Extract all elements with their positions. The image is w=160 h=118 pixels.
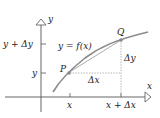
y-axis-label: y	[47, 14, 54, 24]
dx-label: Δx	[87, 75, 100, 85]
x-axis-label: x	[147, 81, 152, 91]
x-tick-label-x-plus-dx: x + Δx	[106, 100, 136, 110]
dy-label: Δy	[123, 53, 136, 63]
curve-label: y = f(x)	[57, 41, 92, 51]
derivative-diagram: y x y + Δy y x x + Δx y = f(x) P Q Δx Δy	[0, 0, 160, 118]
point-p-label: P	[59, 64, 67, 74]
x-tick-label-x: x	[67, 100, 72, 110]
y-axis-arrow-icon	[36, 19, 46, 25]
x-axis-arrow-icon	[145, 92, 151, 102]
y-tick-label-y: y	[31, 68, 38, 78]
point-q-label: Q	[117, 27, 125, 37]
y-tick-label-y-plus-dy: y + Δy	[2, 39, 34, 49]
point-p	[67, 71, 71, 75]
point-q	[119, 38, 123, 42]
